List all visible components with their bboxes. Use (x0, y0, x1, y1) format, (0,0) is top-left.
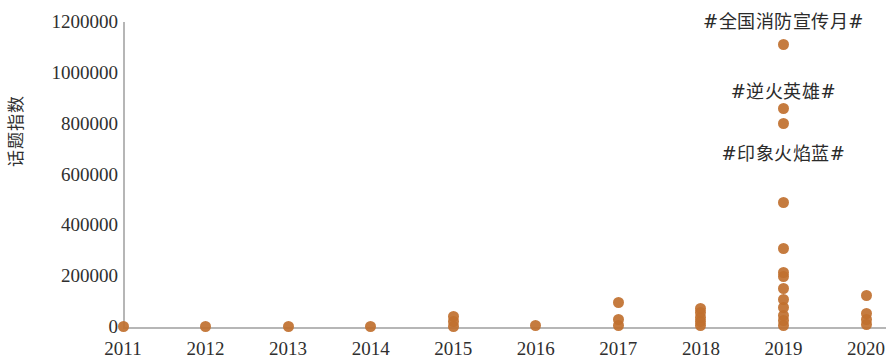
data-point (861, 308, 872, 319)
x-tick-label: 2016 (517, 339, 555, 358)
data-point (613, 314, 624, 325)
point-annotation: #逆火英雄# (731, 82, 836, 102)
data-point (778, 103, 789, 114)
data-point (861, 290, 872, 301)
x-tick-label: 2019 (764, 339, 802, 358)
data-point (778, 243, 789, 254)
y-tick-label: 0 (6, 317, 118, 336)
data-point (448, 311, 459, 322)
y-axis-tick-labels: 020000040000060000080000010000001200000 (0, 0, 118, 362)
x-tick-label: 2018 (682, 339, 720, 358)
y-tick-label: 200000 (6, 266, 118, 285)
data-point (283, 321, 294, 332)
data-point (778, 39, 789, 50)
data-point (778, 118, 789, 129)
point-annotation: #印象火焰蓝# (722, 144, 846, 164)
x-axis-line (123, 327, 886, 329)
y-tick-label: 400000 (6, 215, 118, 234)
data-point (778, 283, 789, 294)
y-axis-line (123, 22, 125, 327)
y-tick-label: 1000000 (6, 63, 118, 82)
data-point (118, 321, 129, 332)
x-tick-label: 2013 (269, 339, 307, 358)
data-point (200, 321, 211, 332)
x-tick-label: 2011 (104, 339, 141, 358)
data-point (778, 197, 789, 208)
x-tick-label: 2017 (599, 339, 637, 358)
scatter-chart: 话题指数 02000004000006000008000001000000120… (0, 0, 888, 362)
data-point (778, 267, 789, 278)
x-tick-label: 2015 (434, 339, 472, 358)
x-tick-label: 2020 (847, 339, 885, 358)
x-tick-label: 2012 (187, 339, 225, 358)
data-point (365, 321, 376, 332)
y-tick-label: 1200000 (6, 12, 118, 31)
data-point (530, 320, 541, 331)
y-tick-label: 600000 (6, 165, 118, 184)
x-tick-label: 2014 (352, 339, 390, 358)
y-tick-label: 800000 (6, 114, 118, 133)
point-annotation: #全国消防宣传月# (703, 12, 864, 32)
data-point (778, 294, 789, 305)
data-point (613, 297, 624, 308)
